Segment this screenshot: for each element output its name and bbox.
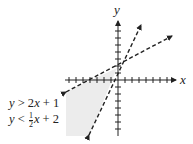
ineq2-const: + 2 — [39, 112, 59, 126]
ineq2-op: < — [15, 112, 28, 126]
frac-den: 2 — [29, 121, 33, 129]
fraction-one-half: 12 — [29, 112, 33, 129]
y-axis-label: y — [114, 2, 120, 18]
inequality-1: y > 2x + 1 — [9, 96, 59, 111]
ineq1-op: > 2 — [15, 96, 35, 110]
inequality-2: y < 12x + 2 — [9, 112, 59, 129]
x-axis-label: x — [180, 72, 186, 88]
ineq1-const: + 1 — [40, 96, 60, 110]
